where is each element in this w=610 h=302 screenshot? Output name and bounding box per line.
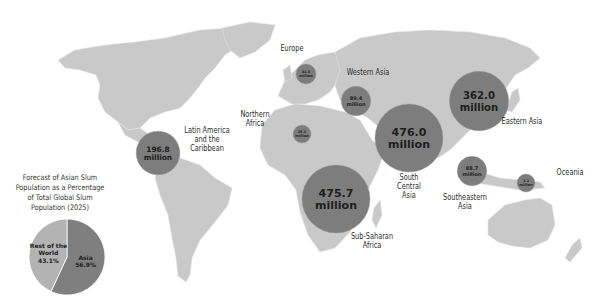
region-label-europe: Europe: [259, 44, 325, 53]
land-new-zealand: [565, 238, 582, 262]
region-label-line: South: [376, 173, 442, 182]
region-label-line: Western Asia: [335, 68, 401, 77]
land-australia: [488, 198, 555, 248]
pie-title-line: Population as a Percentage: [10, 183, 110, 193]
pie-title-line: Forecast of Asian Slum: [10, 173, 110, 183]
bubble-unit: million: [460, 102, 498, 113]
bubble-value: 362.0: [463, 90, 495, 101]
pie-slice-label: Rest of the: [30, 242, 67, 249]
region-label-eastern-asia: Eastern Asia: [489, 117, 555, 126]
region-label-line: Africa: [339, 241, 405, 250]
region-label-line: Eastern Asia: [489, 117, 555, 126]
pie-slice-label: World: [39, 249, 59, 256]
pie-title-line: of Total Global Slum: [10, 193, 110, 203]
bubble-unit: million: [295, 134, 309, 138]
bubble-unit: million: [388, 138, 430, 151]
land-south-america: [155, 158, 232, 282]
pie-slice-value: 56.9%: [75, 261, 96, 268]
land-madagascar: [372, 200, 382, 228]
bubble-unit: million: [462, 171, 481, 177]
pie-slice-value: 43.1%: [38, 257, 59, 264]
pie-title-line: Population (2025): [10, 203, 110, 213]
region-label-latin-america-and-the-caribbean: Latin Americaand theCaribbean: [174, 126, 240, 153]
bubble-unit: million: [519, 183, 533, 187]
region-label-northern-africa: NorthernAfrica: [222, 110, 288, 128]
region-label-line: Caribbean: [174, 144, 240, 153]
region-label-line: Central: [376, 182, 442, 191]
bubble-value: 476.0: [392, 126, 427, 139]
pie-chart: Asia56.9%Rest of theWorld43.1%: [22, 217, 112, 297]
region-label-line: Africa: [222, 119, 288, 128]
region-label-southeastern-asia: SoutheasternAsia: [432, 193, 498, 211]
region-label-line: Sub-Saharan: [339, 232, 405, 241]
pie-chart-title: Forecast of Asian Slum Population as a P…: [10, 173, 110, 213]
bubble-unit: million: [144, 153, 172, 162]
bubble-unit: million: [315, 199, 357, 212]
region-label-oceania: Oceania: [537, 168, 603, 177]
bubble-unit: million: [346, 101, 366, 107]
region-label-line: Asia: [432, 202, 498, 211]
region-label-sub-saharan-africa: Sub-SaharanAfrica: [339, 232, 405, 250]
land-north-america: [58, 28, 250, 130]
region-label-line: Oceania: [537, 168, 603, 177]
region-label-line: Northern: [222, 110, 288, 119]
bubble-value: 475.7: [319, 187, 354, 200]
region-label-line: Europe: [259, 44, 325, 53]
region-label-western-asia: Western Asia: [335, 68, 401, 77]
region-label-line: Southeastern: [432, 193, 498, 202]
region-label-line: and the: [174, 135, 240, 144]
bubble-unit: million: [299, 74, 313, 78]
pie-slice-label: Asia: [78, 254, 92, 261]
